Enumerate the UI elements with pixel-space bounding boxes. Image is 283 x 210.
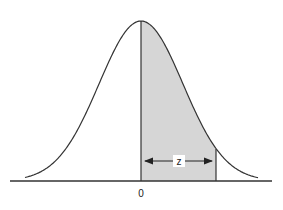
- z-label: z: [177, 156, 182, 167]
- normal-curve-diagram: z 0: [0, 0, 283, 210]
- zero-tick-label: 0: [138, 188, 144, 199]
